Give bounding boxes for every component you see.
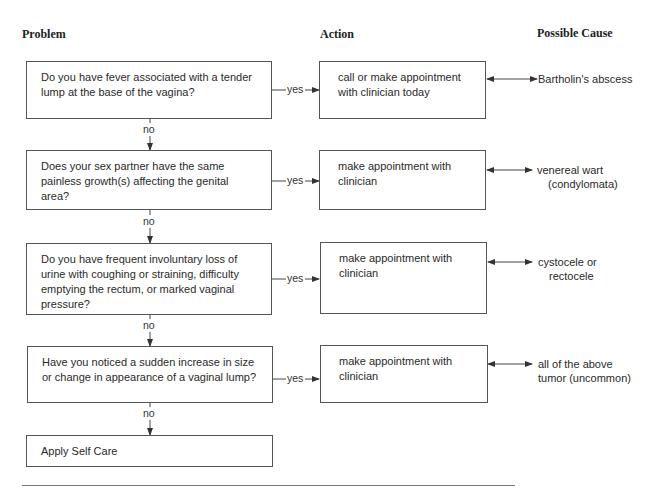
yes-label: yes bbox=[287, 372, 303, 384]
no-label: no bbox=[143, 319, 155, 331]
yes-label: yes bbox=[287, 272, 303, 284]
action-box-appointment: make appointment with clinician bbox=[320, 242, 487, 314]
cause-line: rectocele bbox=[538, 269, 597, 283]
action-text: make appointment with clinician bbox=[338, 160, 451, 187]
yes-label: yes bbox=[287, 174, 303, 186]
no-label: no bbox=[143, 123, 155, 135]
cause-cystocele-rectocele: cystocele or rectocele bbox=[538, 255, 597, 283]
yes-label: yes bbox=[287, 83, 303, 95]
action-text: make appointment with clinician bbox=[339, 355, 452, 382]
cause-line: all of the above bbox=[538, 357, 631, 371]
cause-venereal-wart: venereal wart (condylomata) bbox=[537, 163, 618, 191]
no-label: no bbox=[143, 215, 155, 227]
action-text: call or make appointment with clinician … bbox=[338, 71, 461, 98]
action-box-appointment: make appointment with clinician bbox=[320, 345, 488, 403]
question-box-incontinence: Do you have frequent involuntary loss of… bbox=[26, 243, 272, 315]
cause-bartholins-abscess: Bartholin's abscess bbox=[538, 72, 632, 86]
self-care-box: Apply Self Care bbox=[26, 435, 273, 467]
self-care-text: Apply Self Care bbox=[41, 445, 117, 457]
cause-line: cystocele or bbox=[538, 255, 597, 269]
no-label: no bbox=[143, 407, 155, 419]
question-box-lump-change: Have you noticed a sudden increase in si… bbox=[27, 346, 273, 403]
question-text: Do you have fever associated with a tend… bbox=[41, 71, 252, 98]
cause-line: (condylomata) bbox=[537, 177, 618, 191]
bottom-divider bbox=[22, 485, 515, 486]
question-text: Does your sex partner have the same pain… bbox=[41, 160, 229, 202]
action-text: make appointment with clinician bbox=[339, 252, 452, 279]
cause-line: Bartholin's abscess bbox=[538, 72, 632, 86]
question-box-partner-growth: Does your sex partner have the same pain… bbox=[26, 150, 272, 210]
action-box-call-today: call or make appointment with clinician … bbox=[319, 61, 486, 119]
question-text: Have you noticed a sudden increase in si… bbox=[42, 356, 256, 383]
question-box-fever-lump: Do you have fever associated with a tend… bbox=[26, 61, 272, 119]
cause-tumor: all of the above tumor (uncommon) bbox=[538, 357, 631, 385]
cause-line: venereal wart bbox=[537, 163, 618, 177]
question-text: Do you have frequent involuntary loss of… bbox=[41, 253, 239, 310]
action-box-appointment: make appointment with clinician bbox=[319, 150, 486, 210]
cause-line: tumor (uncommon) bbox=[538, 371, 631, 385]
